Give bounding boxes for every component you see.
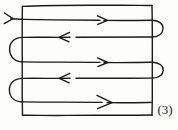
figure-number-label: (3) xyxy=(152,100,178,120)
pass-line-1 xyxy=(23,16,153,25)
u-turn-left-2 xyxy=(10,37,23,62)
pass-line-2 xyxy=(22,32,152,41)
figure-container: (3) xyxy=(0,0,178,130)
pass-line-5 xyxy=(22,95,152,108)
u-turn-right-3 xyxy=(152,62,163,78)
boundary-rectangle xyxy=(22,5,152,115)
entry-arrow xyxy=(4,13,22,24)
pass-line-3 xyxy=(22,58,152,67)
pass-line-4 xyxy=(22,73,152,82)
u-turn-left-4 xyxy=(9,78,22,102)
u-turn-right-1 xyxy=(152,20,163,37)
